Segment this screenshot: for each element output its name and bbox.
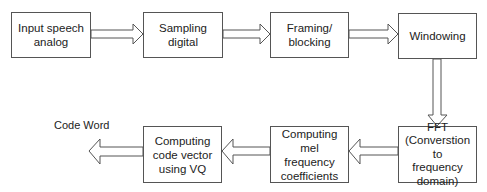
output-label: Code Word	[54, 119, 109, 131]
box-label: Sampling digital	[159, 21, 207, 49]
box-framing: Framing/ blocking	[270, 12, 349, 58]
box-label: Computing code vector using VQ	[153, 134, 212, 176]
box-label: Computing mel frequency coefficients	[271, 127, 348, 183]
arrow-right-icon	[91, 24, 143, 44]
arrow-down-icon	[428, 59, 447, 126]
box-label: Windowing	[409, 29, 465, 43]
arrow-right-icon	[349, 24, 398, 44]
box-label: Framing/ blocking	[287, 21, 332, 49]
box-windowing: Windowing	[398, 13, 477, 59]
box-sampling: Sampling digital	[143, 12, 223, 58]
box-label: FFT (Converstion to frequency domain)	[399, 121, 476, 189]
box-fft: FFT (Converstion to frequency domain)	[398, 126, 477, 183]
box-mel-coefficients: Computing mel frequency coefficients	[270, 126, 349, 183]
box-label: Input speech analog	[18, 21, 84, 49]
arrow-left-icon	[89, 139, 143, 164]
box-vq: Computing code vector using VQ	[143, 126, 222, 183]
box-input-speech: Input speech analog	[11, 12, 91, 58]
arrow-left-icon	[222, 139, 270, 164]
arrow-left-icon	[349, 139, 398, 164]
arrow-right-icon	[223, 24, 270, 44]
